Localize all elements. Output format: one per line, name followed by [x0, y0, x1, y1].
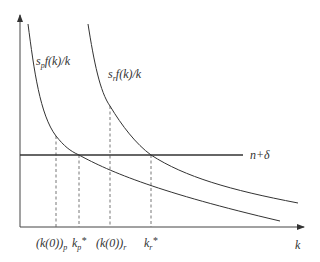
sr-curve-label: srf(k)/k [108, 67, 142, 83]
tick-k0p: (k(0))p [36, 236, 67, 252]
tick-k0r: (k(0))r [96, 236, 127, 252]
sp-curve-label: spf(k)/k [36, 54, 71, 70]
tick-kp-star: kp* [72, 235, 86, 252]
sr-curve [88, 24, 298, 203]
x-axis-label: k [295, 238, 301, 252]
n-delta-label: n+δ [250, 148, 270, 162]
solow-diagram: spf(k)/k srf(k)/k n+δ k (k(0))p kp* (k(0… [0, 0, 320, 262]
tick-kr-star: kr* [144, 235, 157, 252]
